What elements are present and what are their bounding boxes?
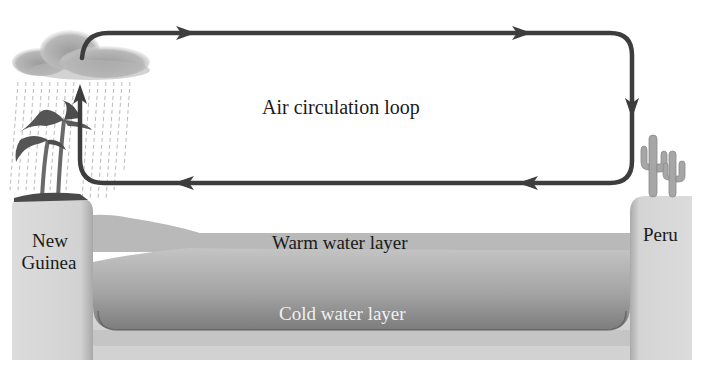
cacti-icon [641, 135, 685, 197]
peru-label: Peru [643, 224, 678, 246]
warm-water-layer-label: Warm water layer [272, 232, 408, 254]
new-guinea-label-line2: Guinea [11, 252, 87, 274]
cold-water-layer-label: Cold water layer [279, 303, 406, 325]
loop-label: Air circulation loop [262, 96, 420, 118]
new-guinea-label-line1: New [20, 230, 80, 252]
el-nino-diagram: Air circulation loop New Guinea Peru War… [0, 0, 706, 372]
